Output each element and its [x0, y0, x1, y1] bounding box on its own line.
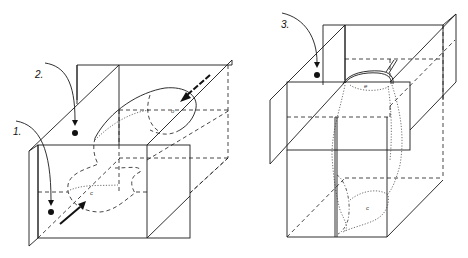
blob-region: o c: [68, 88, 196, 212]
region-label-c-lower: c: [366, 205, 369, 211]
region-label-c: c: [90, 190, 93, 196]
step-3-dot: [314, 72, 320, 78]
lower-box: [287, 117, 443, 237]
step-3-label: 3.: [281, 19, 289, 30]
diagonal-plane-front: [29, 145, 228, 246]
region-label-o: o: [171, 108, 175, 114]
diagonal-plane: [270, 14, 456, 164]
step-1-callout: 1.: [13, 121, 54, 215]
vertical-region: e c: [332, 60, 402, 234]
diagram-canvas: o c 2. 1.: [0, 0, 468, 258]
step-1-label: 1.: [13, 126, 21, 137]
step-2-label: 2.: [34, 69, 43, 80]
right-panel: e c 3.: [270, 13, 456, 237]
region-label-e: e: [364, 83, 368, 89]
back-plane: [77, 60, 232, 145]
step-2-dot: [72, 130, 78, 136]
left-panel: o c 2. 1.: [13, 60, 232, 246]
step-3-callout: 3.: [281, 13, 320, 78]
step-1-dot: [48, 209, 54, 215]
direction-arrow-top: [180, 75, 210, 102]
